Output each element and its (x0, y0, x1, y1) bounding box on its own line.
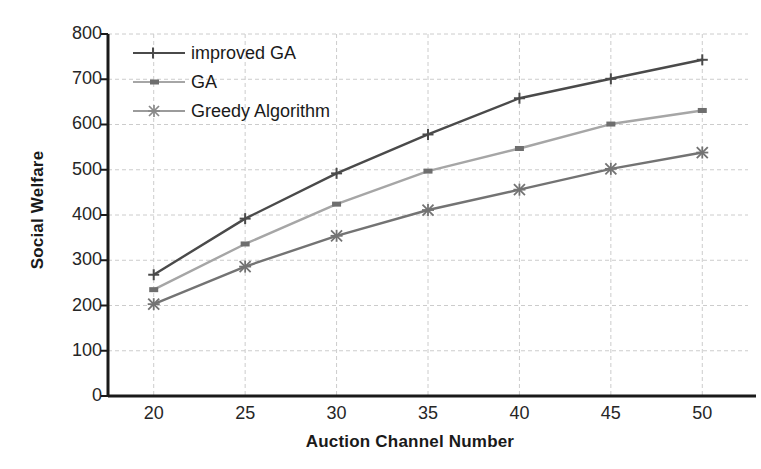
legend-item-greedy-algorithm: Greedy Algorithm (133, 98, 330, 124)
x-tick-label: 50 (672, 403, 732, 424)
x-tick-label: 30 (307, 403, 367, 424)
legend-item-improved-ga: improved GA (133, 40, 330, 66)
legend-swatch-asterisk-icon (133, 104, 185, 118)
legend-swatch-plus-icon (133, 46, 185, 60)
x-tick-label: 45 (581, 403, 641, 424)
x-tick-label: 35 (398, 403, 458, 424)
legend-item-ga: GA (133, 69, 330, 95)
x-tick-label: 25 (215, 403, 275, 424)
legend-label: improved GA (191, 44, 296, 62)
x-tick-label: 20 (124, 403, 184, 424)
x-tick-label: 40 (489, 403, 549, 424)
x-axis-title: Auction Channel Number (110, 432, 710, 452)
legend-label: Greedy Algorithm (191, 102, 330, 120)
chart-legend: improved GA GA (133, 40, 330, 127)
legend-swatch-square-icon (133, 75, 185, 89)
legend-label: GA (191, 73, 217, 91)
plot-area (0, 0, 761, 469)
chart-container: Social Welfare 800 700 600 500 400 300 2… (0, 0, 761, 469)
